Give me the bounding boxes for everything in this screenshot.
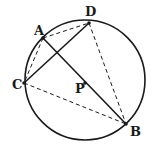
label-c: C	[12, 77, 22, 92]
solid-segments	[24, 23, 126, 124]
label-a: A	[33, 23, 45, 38]
geometry-diagram: ADCBP	[0, 0, 154, 146]
label-p: P	[75, 81, 85, 96]
label-d: D	[85, 4, 96, 19]
label-b: B	[130, 124, 141, 139]
point-d	[87, 21, 91, 25]
point-b	[124, 122, 128, 126]
point-c	[22, 81, 26, 85]
segment-ac	[24, 38, 43, 83]
segment-db	[89, 23, 126, 124]
